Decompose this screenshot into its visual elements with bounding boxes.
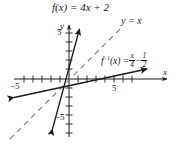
graph-figure: f(x) = 4x + 2 y = x f−1(x) =x4−12 y x 5 … [0, 0, 179, 145]
identity-line-y-equals-x [10, 28, 121, 139]
y-tick-label-5: 5 [57, 28, 62, 37]
x-tick-label-5: 5 [112, 84, 117, 93]
function-equation-label: f(x) = 4x + 2 [52, 2, 109, 13]
coordinate-plot-svg [0, 0, 179, 145]
inverse-frac2-denominator: 2 [141, 60, 147, 69]
x-tick-label-negative-5: −5 [10, 82, 20, 91]
inverse-equation-label: f−1(x) =x4−12 [101, 52, 147, 69]
y-tick-label-negative-5: −5 [55, 113, 65, 122]
inverse-equals: (x) = [110, 56, 129, 66]
x-axis-label: x [163, 68, 167, 77]
identity-equation-label: y = x [121, 16, 142, 26]
inverse-frac2-numerator: 1 [141, 52, 147, 60]
inverse-fraction-1-over-2: 12 [141, 52, 147, 69]
function-line-f-inverse [14, 69, 147, 98]
